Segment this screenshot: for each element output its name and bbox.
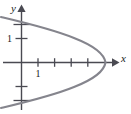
y-axis-label: y [10, 2, 16, 14]
y-axis-tick-label-1: 1 [7, 33, 12, 44]
x-axis-tick-label-1: 1 [36, 68, 41, 79]
x-axis-arrowhead [112, 58, 120, 67]
x-axis-label: x [120, 52, 126, 64]
y-axis-arrowhead [17, 5, 25, 13]
parabola-figure: y x 1 1 [0, 0, 131, 114]
graph-canvas: y x 1 1 [0, 0, 131, 114]
